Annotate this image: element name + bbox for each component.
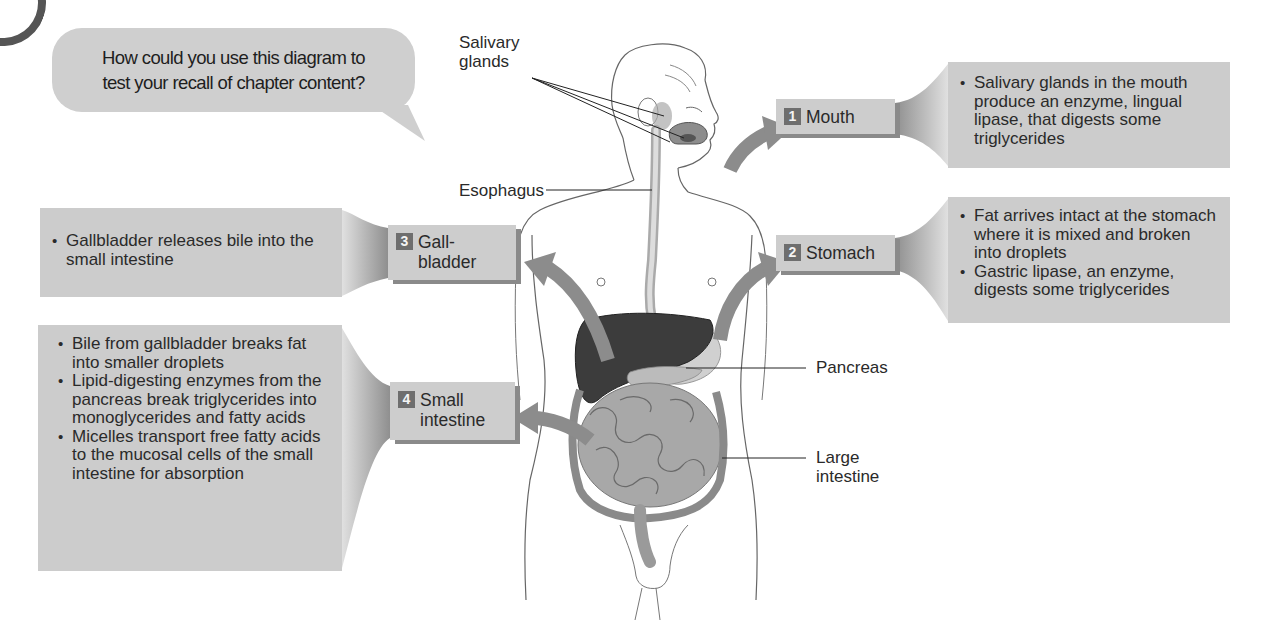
corner-decoration	[0, 0, 58, 58]
salivary-label-line-1: Salivary	[459, 33, 519, 52]
step-title: Stomach	[806, 243, 875, 263]
large-intestine-line-1: Large	[816, 448, 879, 467]
step-title-line-2: bladder	[396, 252, 516, 272]
question-line-1: How could you use this diagram to	[102, 45, 365, 70]
step-3-gallbladder-description: Gallbladder releases bile into the small…	[40, 208, 342, 297]
description-point: Micelles transport free fatty acids to t…	[58, 428, 334, 484]
step-title: Mouth	[806, 107, 855, 127]
question-line-2: test your recall of chapter content?	[102, 70, 365, 95]
description-point: Lipid-digesting enzymes from the pancrea…	[58, 372, 334, 428]
question-speech-bubble: How could you use this diagram to test y…	[52, 28, 415, 112]
description-point: Fat arrives intact at the stomach where …	[960, 207, 1222, 263]
step-4-small-intestine-label: 4Small intestine	[390, 382, 515, 440]
step-2-stomach-description: Fat arrives intact at the stomach where …	[948, 197, 1230, 323]
step-number-badge: 4	[398, 391, 415, 408]
step-2-stomach-label: 2Stomach	[776, 235, 895, 271]
step-number-badge: 3	[396, 233, 413, 250]
step-number-badge: 1	[784, 108, 801, 125]
description-point: Salivary glands in the mouth produce an …	[960, 74, 1220, 148]
step-title-line-2: intestine	[398, 410, 515, 430]
step-1-mouth-label: 1Mouth	[776, 99, 895, 134]
step-1-mouth-description: Salivary glands in the mouth produce an …	[948, 62, 1230, 168]
step-number-badge: 2	[784, 244, 801, 261]
description-point: Gastric lipase, an enzyme, digests some …	[960, 263, 1222, 300]
salivary-label-line-2: glands	[459, 52, 519, 71]
pancreas-label: Pancreas	[816, 358, 888, 377]
step-title-line-1: Gall-	[418, 232, 455, 252]
description-point: Gallbladder releases bile into the small…	[52, 232, 332, 269]
esophagus-label: Esophagus	[459, 181, 544, 200]
large-intestine-line-2: intestine	[816, 467, 879, 486]
step-3-gallbladder-label: 3Gall- bladder	[388, 225, 516, 280]
salivary-glands-label: Salivary glands	[459, 33, 519, 71]
step-title-line-1: Small	[420, 390, 464, 410]
large-intestine-label: Large intestine	[816, 448, 879, 486]
description-point: Bile from gallbladder breaks fat into sm…	[58, 335, 334, 372]
step-4-small-intestine-description: Bile from gallbladder breaks fat into sm…	[38, 325, 342, 571]
